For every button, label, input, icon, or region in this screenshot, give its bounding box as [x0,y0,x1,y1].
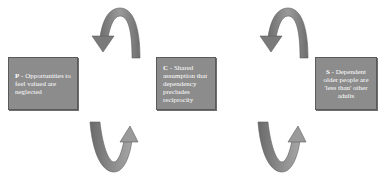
node-s-dependent-older-people: S - Dependent older people are 'less tha… [315,57,377,110]
curved-arrow-up-icon [86,118,146,174]
node-c-shared-assumption: C - Shared assumption that dependency pr… [156,57,216,110]
node-p-opportunities: P - Opportunities to feel valued are neg… [8,57,78,110]
curved-arrow-up-icon [254,118,314,174]
curved-arrow-left-icon [254,4,314,60]
curved-arrow-left-icon [86,4,146,60]
